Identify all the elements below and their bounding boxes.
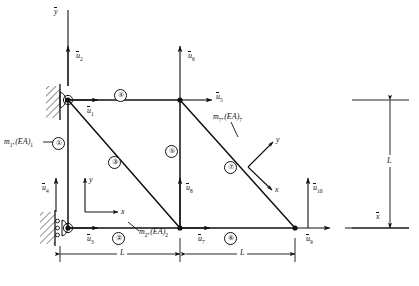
property-leader-lines [43, 122, 238, 231]
global-y-axis-label: y [54, 8, 58, 16]
member-number-6: ⑥ [224, 232, 237, 245]
leader-member-2 [128, 222, 139, 231]
dof-label-u4: u4 [42, 184, 49, 194]
dimension-L-right-label: L [237, 249, 247, 257]
support-hatch-bottom-left [40, 210, 55, 246]
dof-label-u8: u8 [186, 184, 193, 194]
local-x-axis-label-1: x [121, 208, 125, 216]
dof-label-u5: u5 [216, 93, 223, 103]
dof-label-u6: u6 [188, 52, 195, 62]
member-number-4: ④ [114, 89, 127, 102]
figure-canvas: ① ② ③ ④ ⑤ ⑥ ⑦ y x y x y x u1 u2 u3 u4 u5… [0, 0, 419, 286]
dof-label-u1: u1 [87, 107, 94, 117]
member-1-properties-label: m1, (EA)1 [4, 138, 33, 148]
member-number-7: ⑦ [224, 161, 237, 174]
dof-label-u7: u7 [198, 235, 205, 245]
local-x-axis-label-2: x [275, 186, 279, 194]
local-y-axis-label-1: y [89, 176, 93, 184]
truss-joints [65, 97, 297, 230]
local-y-axis-label-2: y [276, 136, 280, 144]
dof-label-u2: u2 [76, 52, 83, 62]
member-number-5: ⑤ [165, 145, 178, 158]
member-number-2: ② [112, 232, 125, 245]
dimension-L-left-label: L [117, 249, 127, 257]
dof-label-u10: u10 [313, 184, 323, 194]
global-x-axis-label: x [376, 213, 380, 221]
dof-label-u3: u3 [87, 235, 94, 245]
support-hatch-top-left [46, 84, 60, 120]
local-axes-member-7 [248, 142, 273, 190]
member-number-3: ③ [108, 156, 121, 169]
dof-label-u9: u9 [306, 235, 313, 245]
truss-members [68, 100, 295, 228]
local-x-axis-2 [248, 167, 272, 190]
member-number-1: ① [52, 137, 65, 150]
leader-member-7 [231, 122, 238, 137]
member-2-properties-label: m2, (EA)2 [139, 228, 168, 238]
dimension-L-vertical-label: L [385, 155, 393, 167]
dof-arrows [56, 46, 330, 228]
member-7-properties-label: m7, (EA)7 [213, 113, 242, 123]
local-y-axis-2 [248, 142, 273, 167]
